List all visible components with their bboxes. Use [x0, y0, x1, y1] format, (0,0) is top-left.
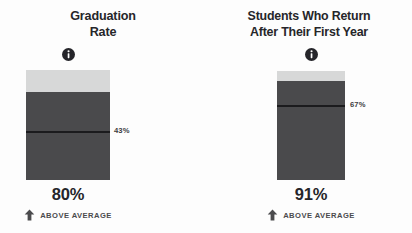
bar-chart-student-retention: [277, 71, 345, 180]
comparison-label: ABOVE AVERAGE: [40, 211, 112, 220]
bar-fill-value: [277, 81, 345, 180]
arrow-up-icon: [267, 209, 278, 221]
bar-chart-graduation-rate: [26, 70, 110, 180]
stats-panel: Graduation Rate 43% 80% ABOVE AVERAGE: [0, 0, 412, 233]
stat-value: 80%: [16, 185, 120, 204]
comparison-indicator: ABOVE AVERAGE: [6, 209, 130, 221]
benchmark-label: 43%: [114, 126, 130, 135]
info-icon[interactable]: [305, 48, 318, 61]
card-title-line-2: After Their First Year: [206, 25, 412, 41]
card-title-line-1: Students Who Return: [206, 9, 412, 25]
benchmark-line: [277, 105, 345, 107]
comparison-indicator: ABOVE AVERAGE: [249, 209, 373, 221]
info-icon[interactable]: [62, 48, 75, 61]
benchmark-label: 67%: [350, 100, 366, 109]
card-title-line-2: Rate: [0, 25, 206, 41]
bar-fill-value: [26, 92, 110, 180]
benchmark-line: [26, 131, 110, 133]
stat-value: 91%: [259, 185, 363, 204]
arrow-up-icon: [24, 209, 35, 221]
card-title-graduation-rate: Graduation Rate: [0, 9, 206, 40]
comparison-label: ABOVE AVERAGE: [283, 211, 355, 220]
card-title-student-retention: Students Who Return After Their First Ye…: [206, 9, 412, 40]
stat-card-graduation-rate: Graduation Rate 43% 80% ABOVE AVERAGE: [0, 0, 206, 233]
card-title-line-1: Graduation: [0, 9, 206, 25]
